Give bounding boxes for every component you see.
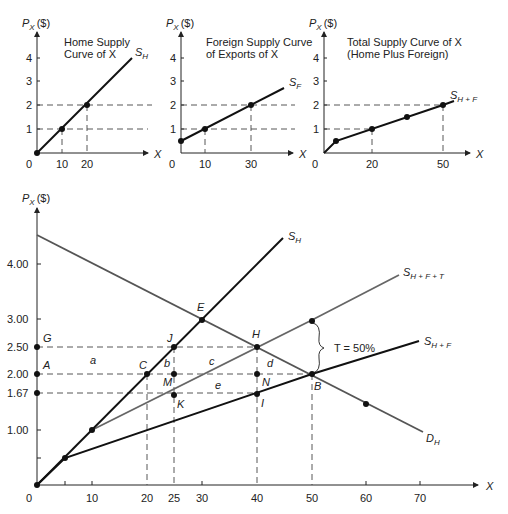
panel-title: Home Supply	[64, 36, 131, 48]
point-label-c: C	[139, 359, 147, 371]
curve-label-shft: SH + F + T	[403, 266, 445, 281]
point-label-m: M	[163, 376, 173, 388]
y-tick: 3	[313, 75, 319, 87]
curve-label: SH	[135, 46, 148, 61]
diagram-canvas: 1 2 3 4 0 10 20 X PX($) Home Supply Curv…	[0, 0, 508, 514]
main-chart: PX($) X 1.00 1.67 2.00 2.50 3.00 4.00 0 …	[7, 192, 494, 504]
y-tick: 4.00	[7, 258, 28, 270]
curve-label-shf: SH + F	[424, 335, 452, 350]
y-tick: 1.00	[7, 424, 28, 436]
y-tick: 3	[26, 75, 32, 87]
panel-home: 1 2 3 4 0 10 20 X PX($) Home Supply Curv…	[22, 17, 162, 170]
x-tick: 20	[81, 158, 93, 170]
sh-curve	[37, 238, 283, 485]
x-tick: 0	[312, 158, 318, 170]
y-tick: 2	[313, 99, 319, 111]
y-axis-label: PX($)	[309, 17, 337, 32]
area-label-a: a	[90, 354, 96, 366]
y-axis-label: PX($)	[166, 17, 194, 32]
curve-label: SF	[289, 76, 302, 91]
point-label-b: B	[314, 380, 321, 392]
point-label-g: G	[43, 332, 52, 344]
x-tick: 60	[360, 492, 372, 504]
area-label-e: e	[215, 379, 221, 391]
point-label-i: I	[261, 397, 264, 409]
panel-title: Curve of X	[64, 48, 117, 60]
x-tick: 25	[168, 492, 180, 504]
x-tick: 0	[169, 158, 175, 170]
x-tick: 0	[26, 492, 32, 504]
x-tick: 70	[414, 492, 426, 504]
y-tick: 1	[170, 123, 176, 135]
curve-label-dh: DH	[426, 432, 440, 447]
curve-label-sh: SH	[288, 230, 301, 245]
y-tick: 4	[313, 52, 319, 64]
y-tick: 4	[26, 52, 32, 64]
y-tick: 2	[170, 99, 176, 111]
y-axis-label: PX($)	[22, 17, 50, 32]
tariff-label: T = 50%	[334, 342, 375, 354]
x-tick: 10	[86, 492, 98, 504]
x-tick: 20	[141, 492, 153, 504]
area-label-d: d	[267, 357, 274, 369]
x-tick: 0	[26, 158, 32, 170]
y-tick: 1.67	[7, 387, 28, 399]
x-tick: 30	[245, 158, 257, 170]
y-tick: 3	[170, 75, 176, 87]
panel-title: Foreign Supply Curve	[206, 36, 312, 48]
x-tick: 20	[366, 158, 378, 170]
x-tick: 10	[199, 158, 211, 170]
y-axis-label: PX($)	[22, 192, 50, 207]
point-label-k: K	[177, 398, 185, 410]
panel-title: (Home Plus Foreign)	[347, 48, 448, 60]
panel-foreign: 1 2 3 4 0 10 30 X PX($) Foreign Supply C…	[166, 17, 312, 170]
y-tick: 3.00	[7, 313, 28, 325]
y-tick: 4	[170, 52, 176, 64]
point-label-a: A	[42, 359, 50, 371]
point-label-e: E	[197, 301, 205, 313]
panel-total: 1 2 3 4 0 20 50 X PX($) Total Supply Cur…	[309, 17, 484, 170]
x-tick: 50	[306, 492, 318, 504]
tariff-brace	[313, 323, 324, 373]
point-label-h: H	[252, 328, 260, 340]
point-label-n: N	[262, 376, 270, 388]
x-axis-label: X	[153, 148, 162, 160]
y-tick: 2.50	[7, 341, 28, 353]
area-label-c: c	[209, 355, 215, 367]
x-tick: 40	[251, 492, 263, 504]
shf-curve	[324, 101, 454, 153]
x-tick: 10	[56, 158, 68, 170]
y-tick: 1	[313, 123, 319, 135]
panel-title: Total Supply Curve of X	[347, 36, 463, 48]
y-tick: 2	[26, 99, 32, 111]
y-tick: 2.00	[7, 368, 28, 380]
area-label-b: b	[164, 357, 170, 369]
x-axis-label: X	[485, 480, 494, 492]
sf-curve	[181, 88, 284, 141]
panel-title: of Exports of X	[206, 48, 279, 60]
x-tick: 50	[437, 158, 449, 170]
point-label-j: J	[166, 332, 173, 344]
y-tick: 1	[26, 123, 32, 135]
x-axis-label: X	[298, 148, 307, 160]
x-axis-label: X	[475, 148, 484, 160]
x-tick: 30	[196, 492, 208, 504]
